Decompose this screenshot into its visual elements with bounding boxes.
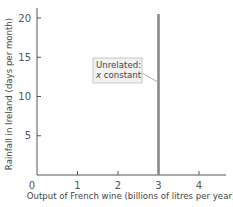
x-axis-title: Output of French wine (billions of litre…	[27, 191, 233, 201]
axes: 510152001234	[18, 8, 226, 191]
annotation-text: Unrelated:	[96, 60, 141, 70]
y-tick-label: 15	[18, 52, 31, 63]
x-tick-label: 0	[29, 180, 35, 191]
annotation-leader-line	[142, 73, 159, 82]
y-tick-label: 20	[18, 13, 31, 24]
y-axis-title: Rainfall in Ireland (days per month)	[4, 18, 14, 170]
chart: 510152001234 Unrelated:x constant Output…	[0, 0, 233, 207]
x-tick-label: 2	[115, 180, 121, 191]
annotation-text: x constant	[95, 70, 142, 80]
y-tick-label: 5	[25, 130, 31, 141]
x-tick-label: 4	[196, 180, 202, 191]
y-tick-label: 10	[18, 91, 31, 102]
x-tick-label: 3	[155, 180, 161, 191]
annotations: Unrelated:x constant	[93, 58, 159, 83]
x-tick-label: 1	[74, 180, 80, 191]
